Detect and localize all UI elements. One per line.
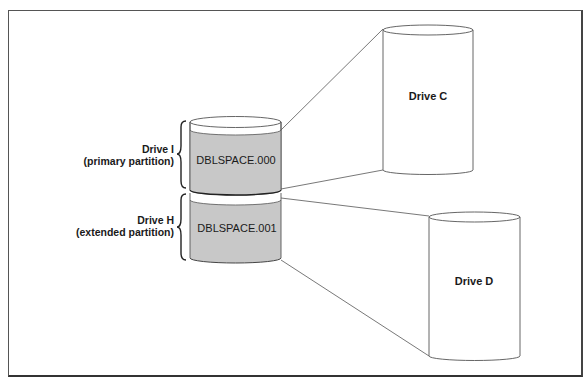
dblspace-001-label: DBLSPACE.001	[197, 222, 276, 234]
drive-d-label: Drive D	[455, 275, 494, 287]
diagram-graphics	[0, 0, 588, 383]
drive-h-partition: (extended partition)	[76, 226, 174, 238]
host-cylinder	[190, 117, 281, 264]
drive-i-label: Drive I (primary partition)	[84, 143, 174, 167]
connector-h-to-d-top	[281, 198, 429, 216]
connector-i-to-c-top	[281, 29, 383, 130]
drive-h-label: Drive H (extended partition)	[76, 214, 174, 238]
connector-i-to-c-bottom	[281, 170, 383, 189]
drive-c-label: Drive C	[409, 90, 448, 102]
brace-drive-i-icon	[177, 121, 186, 188]
connector-h-to-d-bottom	[281, 260, 429, 356]
brace-drive-h-icon	[177, 194, 186, 260]
drive-i-partition: (primary partition)	[84, 155, 174, 167]
diagram-canvas: Drive I (primary partition) Drive H (ext…	[0, 0, 588, 383]
drive-i-name: Drive I	[84, 143, 174, 155]
drive-h-name: Drive H	[76, 214, 174, 226]
dblspace-000-label: DBLSPACE.000	[196, 154, 275, 166]
brace-icons	[177, 121, 186, 260]
